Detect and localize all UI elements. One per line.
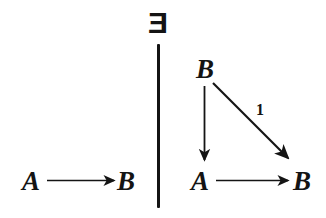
left-object-A: A (22, 168, 40, 195)
arrow-vector-layer (0, 0, 326, 218)
diagonal-arrow-label-1: 1 (256, 102, 264, 118)
right-object-B-top: B (196, 56, 214, 83)
right-object-A-bottom: A (191, 168, 209, 195)
left-object-B: B (117, 168, 135, 195)
right-object-B-bottom: B (293, 168, 311, 195)
math-diagram-figure: E A B B A B 1 (0, 0, 326, 218)
right-arrow-B-to-B-diagonal (213, 83, 288, 158)
